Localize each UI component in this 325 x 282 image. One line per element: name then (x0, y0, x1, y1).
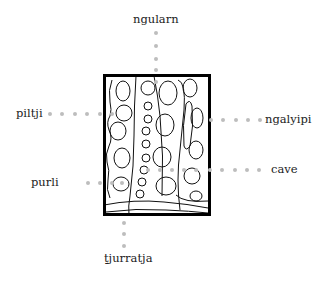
label-piltji: piltji (16, 108, 43, 120)
label-purli: purli (31, 177, 59, 189)
rock-pattern (104, 76, 208, 216)
label-ngalyipi: ngalyipi (265, 114, 312, 126)
cave-frame (105, 76, 210, 215)
label-cave: cave (271, 164, 298, 176)
label-tjurratja: ṯjurratja (104, 253, 153, 265)
cave-diagram (0, 0, 325, 282)
label-ngularn: ngularn (133, 14, 179, 26)
